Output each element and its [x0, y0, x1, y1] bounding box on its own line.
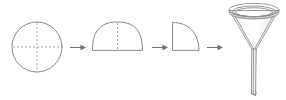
step-1-circle	[12, 22, 62, 72]
step-2-semicircle	[93, 22, 143, 50]
arrow-2	[152, 45, 168, 50]
arrow-3	[207, 45, 223, 50]
arrow-2-head	[163, 45, 169, 50]
arrow-1	[70, 45, 86, 50]
filter-paper-folding-diagram: Circular filter paper Folded in half Fol…	[0, 0, 286, 100]
diagram-canvas	[0, 0, 286, 100]
arrow-3-head	[218, 45, 224, 50]
quarter-circle-outline	[173, 23, 200, 51]
step-4-funnel	[229, 3, 279, 95]
arrow-1-head	[81, 45, 87, 50]
step-3-quarter-circle	[173, 23, 200, 51]
